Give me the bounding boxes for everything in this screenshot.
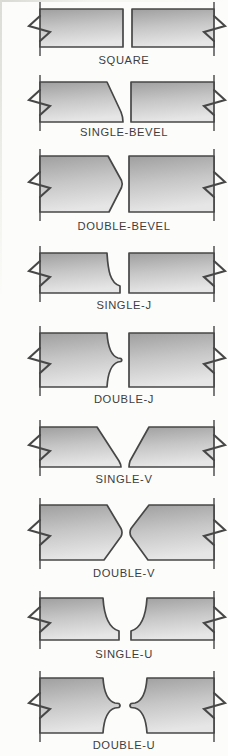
joint-row-single-v: SINGLE-V xyxy=(29,420,225,485)
joint-label: DOUBLE-V xyxy=(93,567,155,579)
joint-label: SINGLE-BEVEL xyxy=(80,126,168,138)
weld-joint-preparation-diagram: SQUARE SINGLE-BEVEL DOUBLE-BEVEL xyxy=(0,0,228,756)
joint-label: SQUARE xyxy=(99,54,150,66)
joint-label: SINGLE-J xyxy=(96,299,151,311)
joint-figure-canvas: SQUARE SINGLE-BEVEL DOUBLE-BEVEL xyxy=(0,0,228,756)
joint-label: SINGLE-U xyxy=(95,648,153,660)
joint-row-double-bevel: DOUBLE-BEVEL xyxy=(29,149,225,232)
left-plate xyxy=(40,598,119,640)
joint-row-double-u: DOUBLE-U xyxy=(29,671,225,751)
right-plate xyxy=(131,598,214,640)
joint-row-single-bevel: SINGLE-BEVEL xyxy=(29,75,225,138)
left-plate xyxy=(40,505,122,560)
right-plate xyxy=(130,505,214,560)
scan-edge-top xyxy=(0,0,228,2)
joint-label: DOUBLE-J xyxy=(94,393,154,405)
left-plate xyxy=(40,9,123,47)
right-plate xyxy=(129,253,214,293)
right-plate xyxy=(132,9,214,47)
right-plate xyxy=(129,427,214,467)
joint-row-single-u: SINGLE-U xyxy=(29,591,225,660)
left-plate xyxy=(40,156,122,212)
joint-label: DOUBLE-BEVEL xyxy=(77,220,170,232)
right-plate xyxy=(130,678,214,733)
joint-label: DOUBLE-U xyxy=(93,739,156,751)
joint-row-double-j: DOUBLE-J xyxy=(29,326,225,405)
joint-row-single-j: SINGLE-J xyxy=(29,246,225,311)
joint-row-double-v: DOUBLE-V xyxy=(29,498,225,579)
left-plate xyxy=(40,253,120,293)
left-plate xyxy=(40,82,123,122)
right-plate xyxy=(131,82,214,122)
left-plate xyxy=(40,427,121,467)
scan-edge-left xyxy=(0,0,2,300)
right-plate xyxy=(129,333,214,387)
right-plate xyxy=(129,156,214,212)
joint-label: SINGLE-V xyxy=(95,473,152,485)
joint-row-square: SQUARE xyxy=(29,2,225,66)
left-plate xyxy=(40,678,120,733)
left-plate xyxy=(40,333,122,387)
